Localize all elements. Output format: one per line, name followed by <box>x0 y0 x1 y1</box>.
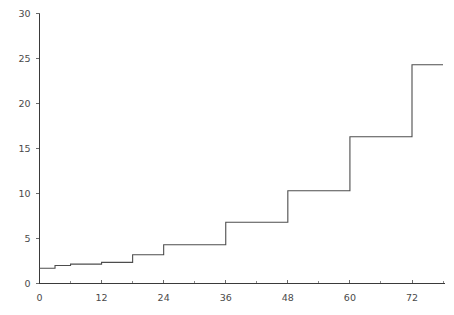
y-tick-mark-group <box>36 14 40 284</box>
y-tick-label: 0 <box>24 278 30 289</box>
y-tick-label: 30 <box>18 8 30 19</box>
step-chart: 051015202530 0122436486072 <box>0 0 454 315</box>
y-tick-label-group: 051015202530 <box>18 8 30 289</box>
x-tick-label: 72 <box>406 292 418 303</box>
y-tick-label: 10 <box>18 188 30 199</box>
step-series-line <box>40 65 444 268</box>
y-tick-label: 5 <box>24 233 30 244</box>
y-tick-label: 20 <box>18 98 30 109</box>
x-tick-label: 48 <box>282 292 294 303</box>
x-tick-label: 12 <box>96 292 108 303</box>
x-tick-label: 60 <box>344 292 356 303</box>
x-tick-label-group: 0122436486072 <box>36 292 418 303</box>
x-tick-label: 24 <box>158 292 170 303</box>
y-tick-label: 25 <box>18 53 30 64</box>
chart-canvas: 051015202530 0122436486072 <box>0 0 454 315</box>
x-tick-label: 36 <box>220 292 232 303</box>
x-tick-label: 0 <box>36 292 42 303</box>
y-tick-label: 15 <box>18 143 30 154</box>
x-tick-mark-group <box>40 280 444 284</box>
